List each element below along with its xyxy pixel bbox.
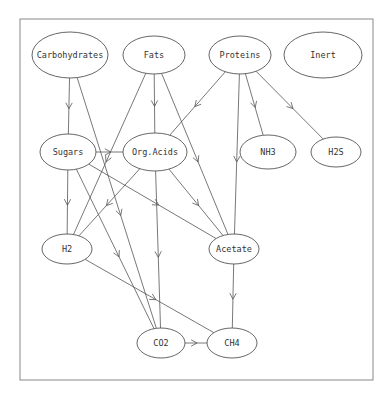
edge-carbohydrates-to-co2: [77, 78, 156, 329]
edge-line: [68, 78, 69, 134]
edge-line: [67, 170, 68, 234]
node-sugars: Sugars: [40, 134, 96, 170]
edge-line: [245, 74, 263, 136]
node-fats: Fats: [123, 36, 185, 74]
edge-acetate-to-ch4: [230, 264, 236, 328]
node-label: Acetate: [216, 244, 252, 254]
node-layer: CarbohydratesFatsProteinsInertSugarsOrg.…: [32, 32, 362, 358]
node-label: CO2: [153, 338, 168, 348]
node-label: Inert: [310, 50, 336, 60]
node-co2: CO2: [137, 328, 185, 358]
edge-line: [232, 264, 233, 328]
node-label: Carbohydrates: [37, 50, 104, 60]
node-label: Sugars: [53, 147, 84, 157]
node-h2: H2: [42, 234, 92, 264]
node-nh3: NH3: [240, 135, 296, 169]
edge-line: [234, 74, 239, 234]
node-inert: Inert: [284, 32, 362, 78]
edge-sugars-to-h2: [64, 170, 70, 234]
node-org-acids: Org.Acids: [123, 133, 187, 171]
edge-line: [154, 74, 155, 133]
node-label: Org.Acids: [132, 147, 178, 157]
edge-carbohydrates-to-sugars: [66, 78, 72, 134]
edge-line: [77, 78, 156, 329]
edge-line: [156, 171, 161, 328]
edge-proteins-to-org_acids: [170, 72, 226, 135]
node-label: Fats: [144, 50, 164, 60]
node-label: NH3: [260, 147, 275, 157]
edge-fats-to-org_acids: [151, 74, 157, 133]
edge-line: [170, 72, 226, 135]
node-label: CH4: [224, 338, 239, 348]
edge-line: [256, 71, 323, 139]
edge-line: [85, 259, 214, 332]
edge-h2-to-ch4: [85, 259, 214, 332]
node-h2s: H2S: [311, 137, 361, 167]
node-proteins: Proteins: [209, 36, 271, 74]
edge-proteins-to-acetate: [234, 74, 240, 234]
node-label: Proteins: [220, 50, 261, 60]
node-label: H2: [62, 244, 72, 254]
edge-co2-to-ch4: [185, 340, 207, 346]
node-label: H2S: [328, 147, 343, 157]
edge-proteins-to-nh3: [245, 74, 263, 136]
edge-org_acids-to-co2: [155, 171, 161, 328]
node-carbohydrates: Carbohydrates: [32, 32, 108, 78]
edge-layer: [64, 71, 323, 346]
edge-proteins-to-h2s: [256, 71, 323, 139]
node-acetate: Acetate: [209, 234, 259, 264]
node-ch4: CH4: [207, 328, 257, 358]
process-diagram: CarbohydratesFatsProteinsInertSugarsOrg.…: [0, 0, 392, 397]
